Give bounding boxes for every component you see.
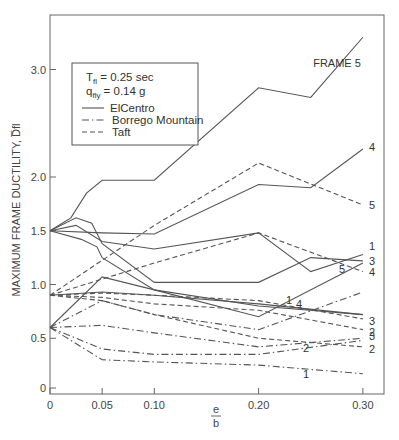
x-tick-label: 0.30 bbox=[352, 399, 373, 411]
x-tick-label: 0 bbox=[47, 399, 53, 411]
series-line-elcentro-frame-3 bbox=[50, 218, 363, 283]
series-line-borrego-frame-1 bbox=[50, 328, 363, 374]
legend-label-elcentro: ElCentro bbox=[110, 102, 155, 114]
x-tick-label: 0.20 bbox=[248, 399, 269, 411]
series-end-label: 4 bbox=[369, 141, 375, 153]
series-end-label: 5 bbox=[339, 263, 345, 275]
legend: Tfl = 0.25 sec qfly = 0.14 g ElCentro Bo… bbox=[72, 63, 203, 145]
series-line-elcentro-frame-4 bbox=[50, 149, 363, 234]
series-end-label: 2 bbox=[303, 342, 309, 354]
series-end-label: 3 bbox=[369, 330, 375, 342]
series-end-label: 1 bbox=[286, 294, 292, 306]
series-line-borrego-frame-2 bbox=[50, 328, 363, 355]
series-end-label: FRAME 5 bbox=[313, 57, 361, 69]
series-line-borrego-frame-3 bbox=[50, 325, 363, 347]
series-end-label: 2 bbox=[369, 343, 375, 355]
series-end-label: 4 bbox=[296, 298, 302, 310]
x-tick-label: 0.10 bbox=[144, 399, 165, 411]
y-tick-label: 2.0 bbox=[31, 171, 46, 183]
series-end-labels: FRAME 541351543224321 bbox=[286, 57, 375, 379]
series-line-taft-frame-2 bbox=[50, 295, 363, 329]
series-end-label: 1 bbox=[369, 240, 375, 252]
y-axis-title: MAXIMUM FRAME DUCTILITY, D̅fl bbox=[10, 124, 22, 297]
series-line-taft-frame-3 bbox=[50, 293, 363, 319]
series-line-taft-frame-5 bbox=[50, 163, 363, 295]
y-tick-label: 3.0 bbox=[31, 64, 46, 76]
x-axis-title-denominator: b bbox=[213, 417, 219, 429]
y-tick-label: 0 bbox=[40, 382, 46, 394]
y-tick-label: 0.5 bbox=[31, 332, 46, 344]
legend-label-taft: Taft bbox=[112, 126, 131, 138]
series-line-elcentro-frame-2 bbox=[50, 231, 363, 315]
y-tick-label: 1.5 bbox=[31, 225, 46, 237]
series-end-label: 4 bbox=[369, 266, 375, 278]
legend-label-borrego: Borrego Mountain bbox=[112, 114, 203, 126]
series-end-label: 5 bbox=[369, 199, 375, 211]
x-tick-label: 0.05 bbox=[91, 399, 112, 411]
x-axis-title: e b bbox=[211, 403, 221, 429]
series-line-elcentro-frame-5-low bbox=[50, 263, 363, 328]
y-tick-label: 1.0 bbox=[31, 279, 46, 291]
ductility-chart: 00.050.100.200.3000.51.01.52.03.0 FRAME … bbox=[0, 0, 399, 440]
series-end-label: 1 bbox=[303, 368, 309, 380]
x-axis-title-numerator: e bbox=[213, 403, 219, 415]
